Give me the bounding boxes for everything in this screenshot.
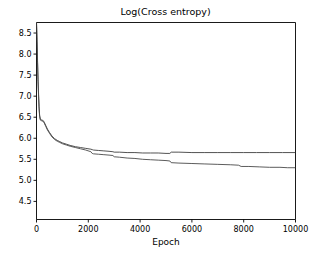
y-tick-label: 7.0	[19, 92, 32, 101]
y-tick-label: 8.0	[19, 50, 32, 59]
plot-canvas: 4.55.05.56.06.57.07.58.08.50200040006000…	[0, 0, 319, 255]
x-tick-label: 6000	[182, 225, 202, 234]
x-tick-label: 8000	[234, 225, 254, 234]
x-tick-label: 4000	[130, 225, 150, 234]
y-tick-label: 5.5	[19, 155, 32, 164]
x-tick-label: 0	[34, 225, 39, 234]
y-tick-label: 5.0	[19, 176, 32, 185]
axes-group: 4.55.05.56.06.57.07.58.08.50200040006000…	[19, 23, 308, 234]
series-curve-upper	[37, 23, 296, 154]
x-tick-label: 10000	[283, 225, 308, 234]
x-axis-label: Epoch	[152, 237, 180, 247]
x-axis-title: Epoch	[152, 237, 180, 247]
y-tick-label: 7.5	[19, 71, 32, 80]
chart-figure: Log(Cross entropy) 4.55.05.56.06.57.07.5…	[0, 0, 319, 255]
series-curve-lower	[37, 23, 296, 168]
y-tick-label: 4.5	[19, 197, 32, 206]
plot-frame	[37, 23, 296, 220]
y-tick-label: 6.0	[19, 134, 32, 143]
series-group	[37, 23, 296, 168]
y-tick-label: 6.5	[19, 113, 32, 122]
x-tick-label: 2000	[78, 225, 98, 234]
y-tick-label: 8.5	[19, 29, 32, 38]
